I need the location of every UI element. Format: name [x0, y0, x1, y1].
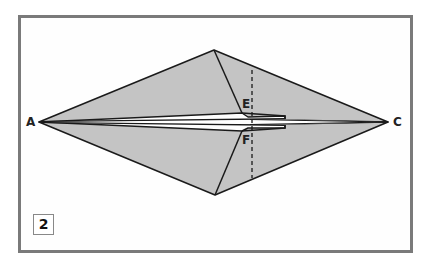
point-label-c: C — [393, 116, 402, 128]
point-label-e: E — [242, 98, 250, 110]
kite-fold-diagram — [0, 0, 426, 262]
lower-flap — [39, 122, 388, 195]
upper-flap — [39, 50, 388, 122]
point-label-f: F — [242, 134, 250, 146]
step-number-badge: 2 — [33, 214, 54, 235]
point-label-a: A — [26, 116, 35, 128]
